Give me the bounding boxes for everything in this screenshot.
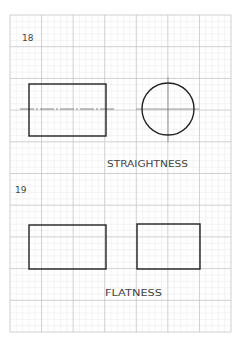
grid-lines <box>10 15 231 332</box>
caption-flatness: FLATNESS <box>105 288 162 298</box>
exercise-18: 18 STRAIGHTNESS <box>20 33 199 169</box>
graph-paper-sheet: 18 STRAIGHTNESS 19 FLATNESS <box>0 0 246 348</box>
drawing-canvas: 18 STRAIGHTNESS 19 FLATNESS <box>0 0 246 348</box>
exercise-number-18: 18 <box>22 33 34 43</box>
caption-straightness: STRAIGHTNESS <box>107 159 188 169</box>
exercise-number-19: 19 <box>15 185 27 195</box>
